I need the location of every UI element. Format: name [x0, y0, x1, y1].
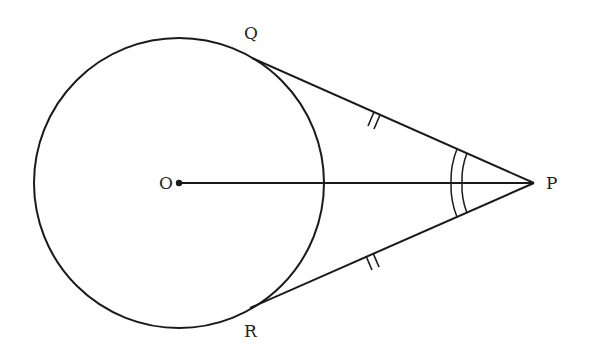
tangent-diagram: O P Q R — [0, 0, 593, 359]
label-o: O — [159, 173, 173, 193]
tangent-rp — [250, 183, 534, 308]
label-r: R — [244, 321, 258, 341]
tangent-qp — [252, 58, 534, 183]
label-p: P — [546, 173, 557, 193]
label-q: Q — [244, 23, 258, 43]
center-point — [176, 180, 182, 186]
